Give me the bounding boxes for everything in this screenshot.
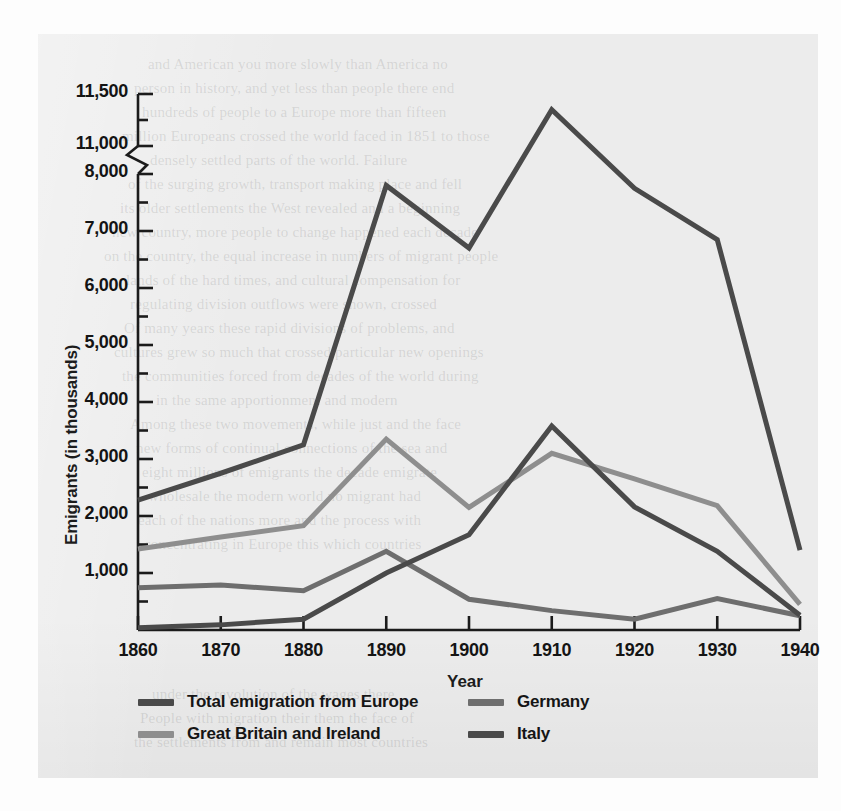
- legend-item: Italy: [468, 724, 738, 744]
- x-tick-label: 1940: [760, 640, 840, 661]
- y-axis-title: Emigrants (in thousands): [62, 344, 82, 544]
- y-tick-label: 1,000: [84, 560, 128, 581]
- x-tick-label: 1860: [98, 640, 178, 661]
- legend-label: Germany: [517, 692, 589, 712]
- legend-label: Great Britain and Ireland: [187, 724, 380, 744]
- chart-figure: 1,0002,0003,0004,0005,0006,0007,0008,000…: [38, 34, 818, 778]
- y-tick-label: 2,000: [84, 503, 128, 524]
- legend-swatch-icon: [468, 699, 504, 706]
- x-tick-label: 1930: [677, 640, 757, 661]
- axes-layer: [127, 94, 800, 630]
- y-tick-label: 11,500: [76, 81, 128, 102]
- legend-swatch-icon: [468, 731, 504, 738]
- y-tick-label: 3,000: [84, 446, 128, 467]
- page-root: and American you more slowly than Americ…: [0, 0, 841, 811]
- y-tick-label: 6,000: [84, 275, 128, 296]
- legend-swatch-icon: [138, 699, 174, 706]
- x-tick-label: 1910: [512, 640, 592, 661]
- legend-item: Great Britain and Ireland: [138, 724, 468, 744]
- legend-item: Total emigration from Europe: [138, 692, 468, 712]
- chart-plot-area: [38, 34, 818, 778]
- legend-label: Italy: [517, 724, 550, 744]
- x-tick-label: 1920: [595, 640, 675, 661]
- y-tick-label: 7,000: [84, 218, 128, 239]
- x-tick-label: 1890: [346, 640, 426, 661]
- y-tick-label: 11,000: [76, 133, 128, 154]
- series-lines-layer: [138, 110, 800, 628]
- x-tick-label: 1900: [429, 640, 509, 661]
- series-line-1: [138, 439, 800, 604]
- legend-swatch-icon: [138, 731, 174, 738]
- legend-label: Total emigration from Europe: [187, 692, 418, 712]
- y-tick-label: 8,000: [84, 161, 128, 182]
- x-tick-label: 1880: [264, 640, 344, 661]
- y-tick-label: 5,000: [84, 332, 128, 353]
- x-tick-label: 1870: [181, 640, 261, 661]
- series-line-2: [138, 551, 800, 619]
- chart-legend: Total emigration from EuropeGermanyGreat…: [138, 686, 738, 750]
- y-tick-label: 4,000: [84, 389, 128, 410]
- series-line-0: [138, 110, 800, 551]
- legend-item: Germany: [468, 692, 738, 712]
